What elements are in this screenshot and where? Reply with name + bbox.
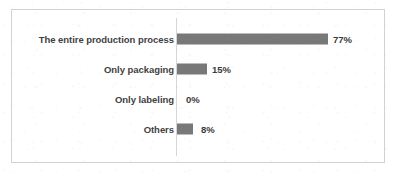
value-label-others: 8%	[201, 124, 215, 135]
bar-row: Only labeling 0%	[12, 84, 386, 114]
bar-only-packaging	[177, 64, 207, 75]
value-label-entire-production-process: 77%	[333, 34, 352, 45]
bar-row: The entire production process 77%	[12, 24, 386, 54]
value-label-only-labeling: 0%	[186, 94, 200, 105]
bar-others	[177, 124, 193, 135]
category-label-only-labeling: Only labeling	[115, 94, 174, 105]
value-label-only-packaging: 15%	[212, 64, 231, 75]
category-label-only-packaging: Only packaging	[104, 64, 174, 75]
chart-border-frame: The entire production process 77% Only p…	[11, 9, 385, 163]
bar-row: Others 8%	[12, 114, 386, 144]
bar-row: Only packaging 15%	[12, 54, 386, 84]
category-label-others: Others	[144, 124, 174, 135]
category-label-entire-production-process: The entire production process	[39, 34, 174, 45]
plot-area: The entire production process 77% Only p…	[12, 10, 386, 164]
bar-entire-production-process	[177, 34, 328, 45]
